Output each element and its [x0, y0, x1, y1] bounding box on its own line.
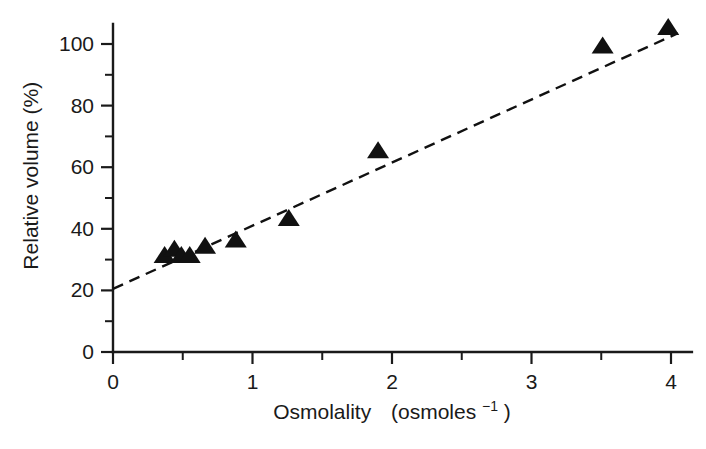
- y-axis-ticks: [101, 44, 113, 352]
- y-tick-label: 20: [71, 278, 94, 301]
- y-tick-label: 80: [71, 94, 94, 117]
- x-tick-label: 4: [665, 370, 677, 393]
- x-axis-title-units-open: (osmoles: [391, 400, 476, 423]
- x-axis-title-units-superscript: −1: [482, 398, 498, 414]
- x-axis-title-main: Osmolality: [273, 400, 372, 423]
- data-point-markers: [154, 18, 680, 263]
- x-axis-title: Osmolality (osmoles −1 ): [273, 392, 511, 423]
- data-point-marker: [592, 37, 614, 54]
- y-axis-tick-labels: 020406080100: [59, 32, 94, 363]
- y-tick-label: 100: [59, 32, 94, 55]
- x-axis-tick-labels: 01234: [107, 370, 677, 393]
- data-point-marker: [367, 141, 389, 158]
- x-axis-ticks: [113, 352, 671, 364]
- y-tick-label: 0: [82, 340, 94, 363]
- scatter-plot: 020406080100 01234 Relative volume (%) O…: [0, 0, 706, 449]
- data-point-marker: [225, 231, 247, 248]
- x-tick-label: 2: [386, 370, 398, 393]
- x-tick-label: 3: [526, 370, 538, 393]
- figure-container: 020406080100 01234 Relative volume (%) O…: [0, 0, 706, 449]
- data-point-marker: [657, 18, 679, 35]
- x-axis-title-units-close: ): [504, 400, 511, 423]
- x-tick-label: 1: [247, 370, 259, 393]
- data-point-marker: [194, 237, 216, 254]
- y-axis-title: Relative volume (%): [19, 82, 42, 270]
- y-tick-label: 60: [71, 155, 94, 178]
- y-tick-label: 40: [71, 217, 94, 240]
- x-tick-label: 0: [107, 370, 119, 393]
